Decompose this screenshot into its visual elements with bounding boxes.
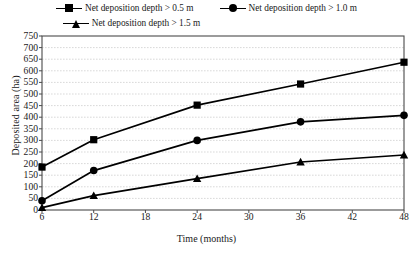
- y-tick-label: 150: [4, 170, 38, 180]
- y-tick-label: 50: [4, 194, 38, 204]
- x-tick-label: 30: [244, 212, 254, 222]
- x-tick-label: 12: [89, 212, 99, 222]
- deposited-area-line-chart: Net deposition depth > 0.5 m Net deposit…: [0, 0, 413, 260]
- y-tick-label: 700: [4, 43, 38, 53]
- y-tick-label: 500: [4, 89, 38, 99]
- legend-item-depth-0-5: Net deposition depth > 0.5 m: [56, 2, 194, 14]
- y-tick-label: 200: [4, 159, 38, 169]
- x-tick-label: 48: [399, 212, 409, 222]
- y-tick-label: 400: [4, 112, 38, 122]
- legend-label-depth-0-5: Net deposition depth > 0.5 m: [85, 2, 194, 14]
- x-axis-ticks: 612182430364248: [0, 212, 413, 226]
- x-tick-label: 6: [40, 212, 45, 222]
- legend-marker-square-icon: [56, 3, 82, 13]
- y-tick-label: 450: [4, 101, 38, 111]
- legend-item-depth-1-0: Net deposition depth > 1.0 m: [220, 2, 358, 14]
- y-tick-label: 300: [4, 136, 38, 146]
- y-tick-label: 600: [4, 66, 38, 76]
- legend-label-depth-1-0: Net deposition depth > 1.0 m: [249, 2, 358, 14]
- x-tick-label: 24: [192, 212, 202, 222]
- plot-area: Deposited area (ha) 05010015020025030035…: [0, 28, 413, 260]
- y-tick-label: 650: [4, 54, 38, 64]
- x-tick-label: 42: [347, 212, 357, 222]
- x-tick-label: 36: [296, 212, 306, 222]
- x-axis-label: Time (months): [0, 233, 413, 244]
- legend-marker-circle-icon: [220, 3, 246, 13]
- y-tick-label: 550: [4, 78, 38, 88]
- legend-marker-triangle-icon: [63, 18, 89, 28]
- chart-legend: Net deposition depth > 0.5 m Net deposit…: [0, 2, 413, 28]
- y-tick-label: 350: [4, 124, 38, 134]
- y-tick-label: 250: [4, 147, 38, 157]
- y-tick-label: 100: [4, 182, 38, 192]
- legend-row-1: Net deposition depth > 0.5 m Net deposit…: [0, 2, 413, 14]
- y-tick-label: 750: [4, 31, 38, 41]
- x-tick-label: 18: [141, 212, 151, 222]
